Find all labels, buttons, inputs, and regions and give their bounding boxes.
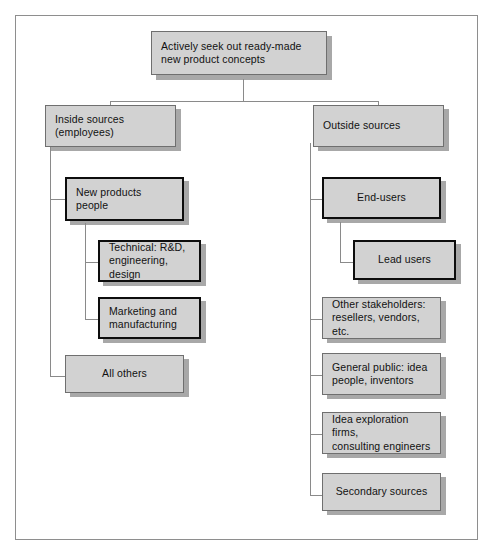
node-secondary-sources-label: Secondary sources <box>323 485 440 499</box>
node-all-others-label: All others <box>66 367 183 381</box>
node-inside-sources[interactable]: Inside sources (employees) <box>45 105 176 147</box>
node-idea-exploration-firms[interactable]: Idea exploration firms, consulting engin… <box>322 412 441 454</box>
node-other-stakeholders-label: Other stakeholders: resellers, vendors, … <box>323 298 440 339</box>
connector-to-new-products-people <box>50 199 66 200</box>
node-outside-sources[interactable]: Outside sources <box>313 105 444 147</box>
connector-to-lead-users <box>340 262 354 263</box>
diagram-canvas: Actively seek out ready-made new product… <box>0 0 494 558</box>
node-general-public[interactable]: General public: idea people, inventors <box>322 353 441 395</box>
connector-npp-subtrunk <box>85 223 86 319</box>
connector-to-all-others <box>50 376 66 377</box>
node-other-stakeholders[interactable]: Other stakeholders: resellers, vendors, … <box>322 297 441 339</box>
node-outside-sources-label: Outside sources <box>314 119 443 133</box>
node-marketing-manufacturing[interactable]: Marketing and manufacturing <box>98 297 201 339</box>
connector-end-users-subtrunk <box>340 222 341 262</box>
connector-left-trunk <box>50 148 51 376</box>
node-lead-users[interactable]: Lead users <box>353 240 456 280</box>
node-root[interactable]: Actively seek out ready-made new product… <box>151 31 327 75</box>
node-all-others[interactable]: All others <box>65 355 184 393</box>
node-new-products-people-label: New products people <box>67 186 182 213</box>
node-technical-rd[interactable]: Technical: R&D, engineering, design <box>98 240 201 282</box>
connector-to-marketing <box>85 319 99 320</box>
node-new-products-people[interactable]: New products people <box>65 177 184 221</box>
node-technical-rd-label: Technical: R&D, engineering, design <box>100 241 199 282</box>
node-secondary-sources[interactable]: Secondary sources <box>322 473 441 511</box>
connector-root-stem <box>243 79 244 101</box>
node-general-public-label: General public: idea people, inventors <box>323 361 440 388</box>
node-inside-sources-label: Inside sources (employees) <box>46 113 175 140</box>
node-lead-users-label: Lead users <box>355 253 454 267</box>
node-root-label: Actively seek out ready-made new product… <box>152 40 326 67</box>
node-end-users[interactable]: End-users <box>322 177 441 219</box>
node-idea-exploration-firms-label: Idea exploration firms, consulting engin… <box>323 413 440 454</box>
connector-root-bus <box>110 101 379 102</box>
node-marketing-manufacturing-label: Marketing and manufacturing <box>100 305 199 332</box>
connector-to-technical <box>85 262 99 263</box>
node-end-users-label: End-users <box>324 191 439 205</box>
